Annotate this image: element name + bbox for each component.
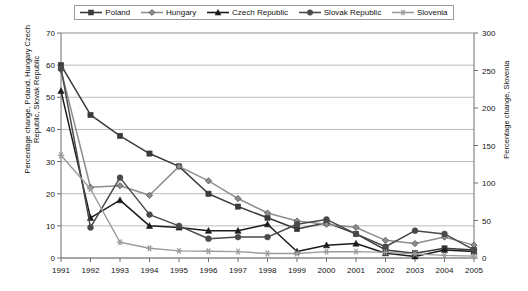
legend-marker-circle-icon	[299, 8, 321, 17]
data-point-circle-marker	[88, 225, 94, 231]
y-axis-right-tick-label: 200	[482, 104, 496, 113]
data-point-circle-marker	[294, 221, 300, 227]
x-axis-tick-label: 2000	[318, 266, 336, 275]
y-axis-left-tick-label: 0	[51, 254, 56, 263]
data-point-square-marker	[89, 10, 94, 15]
data-point-square-marker	[235, 204, 240, 209]
x-axis-tick-label: 2001	[347, 266, 365, 275]
legend-label: Hungary	[165, 9, 196, 17]
data-point-triangle-marker	[58, 88, 64, 94]
data-point-circle-marker	[353, 231, 359, 237]
chart-container: PolandHungaryCzech RepublicSlovak Republ…	[0, 0, 528, 291]
y-axis-left-tick-label: 60	[46, 61, 55, 70]
data-point-diamond-marker	[353, 224, 359, 230]
y-axis-right-tick-label: 150	[482, 142, 496, 151]
chart-legend: PolandHungaryCzech RepublicSlovak Republ…	[74, 5, 454, 20]
legend-item-poland[interactable]: Poland	[80, 8, 130, 17]
legend-item-slovenia[interactable]: Slovenia	[392, 8, 448, 17]
data-point-circle-marker	[265, 234, 271, 240]
legend-label: Czech Republic	[231, 9, 288, 17]
x-axis-tick-label: 1991	[52, 266, 70, 275]
y-axis-right-tick-label: 50	[482, 217, 491, 226]
chart-plot-area: 0102030405060700501001502002503001991199…	[0, 0, 528, 291]
data-point-diamond-marker	[149, 10, 155, 16]
data-point-asterisk-marker	[117, 239, 124, 245]
y-axis-left-tick-label: 70	[46, 29, 55, 38]
y-axis-left-tick-label: 30	[46, 158, 55, 167]
data-point-asterisk-marker	[441, 253, 448, 259]
x-axis-tick-label: 1995	[170, 266, 188, 275]
data-point-asterisk-marker	[235, 249, 242, 255]
data-point-asterisk-marker	[205, 248, 212, 254]
x-axis-tick-label: 2004	[436, 266, 454, 275]
legend-marker-diamond-icon	[141, 8, 163, 17]
data-point-square-marker	[88, 112, 93, 117]
x-axis-tick-label: 1994	[141, 266, 159, 275]
y-axis-left-tick-label: 50	[46, 93, 55, 102]
data-point-asterisk-marker	[146, 245, 153, 251]
data-point-circle-marker	[442, 231, 448, 237]
data-point-asterisk-marker	[264, 251, 271, 257]
data-point-circle-marker	[324, 217, 330, 223]
data-point-circle-marker	[147, 212, 153, 218]
x-axis-tick-label: 1998	[259, 266, 277, 275]
data-point-triangle-marker	[264, 221, 270, 227]
y-axis-right-tick-label: 0	[482, 254, 487, 263]
y-axis-right-tick-label: 100	[482, 179, 496, 188]
x-axis-tick-label: 1999	[288, 266, 306, 275]
data-point-asterisk-marker	[176, 248, 183, 254]
y-axis-left-tick-label: 10	[46, 222, 55, 231]
data-point-square-marker	[117, 133, 122, 138]
data-point-asterisk-marker	[353, 249, 360, 255]
x-axis-tick-label: 1996	[200, 266, 218, 275]
legend-item-slovak-republic[interactable]: Slovak Republic	[299, 8, 381, 17]
data-point-square-marker	[147, 151, 152, 156]
data-point-asterisk-marker	[323, 249, 330, 255]
data-point-diamond-marker	[117, 183, 123, 189]
legend-item-czech-republic[interactable]: Czech Republic	[207, 8, 288, 17]
data-point-circle-marker	[58, 65, 64, 71]
legend-label: Slovak Republic	[323, 9, 381, 17]
legend-label: Slovenia	[416, 9, 448, 17]
x-axis-tick-label: 2002	[377, 266, 395, 275]
y-axis-left-title: Percentage change, Poland, Hungary Czech…	[23, 19, 42, 179]
data-point-circle-marker	[176, 223, 182, 229]
legend-marker-asterisk-icon	[392, 8, 414, 17]
legend-marker-triangle-icon	[207, 8, 229, 17]
data-point-triangle-marker	[117, 197, 123, 203]
data-point-diamond-marker	[382, 237, 388, 243]
data-point-circle-marker	[383, 244, 389, 250]
data-point-diamond-marker	[412, 240, 418, 246]
legend-item-hungary[interactable]: Hungary	[141, 8, 196, 17]
data-point-asterisk-marker	[400, 10, 406, 15]
x-axis-tick-label: 1997	[229, 266, 247, 275]
data-point-circle-marker	[471, 247, 477, 253]
y-axis-right-tick-label: 250	[482, 67, 496, 76]
y-axis-right-title: Percentage change, Slovenia	[502, 35, 511, 185]
y-axis-left-tick-label: 20	[46, 190, 55, 199]
x-axis-tick-label: 2005	[465, 266, 483, 275]
data-point-circle-marker	[206, 236, 212, 242]
legend-label: Poland	[104, 9, 130, 17]
x-axis-tick-label: 2003	[406, 266, 424, 275]
y-axis-right-tick-label: 300	[482, 29, 496, 38]
x-axis-tick-label: 1992	[82, 266, 100, 275]
data-point-square-marker	[206, 191, 211, 196]
y-axis-left-tick-label: 40	[46, 125, 55, 134]
data-point-circle-marker	[307, 10, 313, 16]
data-point-circle-marker	[117, 175, 123, 181]
series-line	[61, 155, 474, 256]
data-point-circle-marker	[235, 234, 241, 240]
x-axis-tick-label: 1993	[111, 266, 129, 275]
legend-marker-square-icon	[80, 8, 102, 17]
data-point-circle-marker	[412, 228, 418, 234]
